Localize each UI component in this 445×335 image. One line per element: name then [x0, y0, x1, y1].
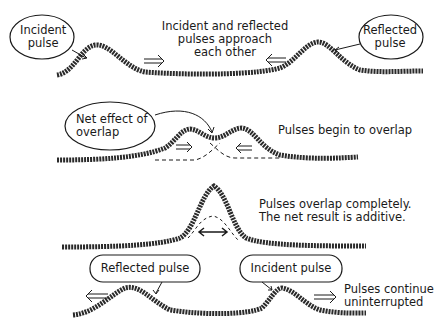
incident-pulse-label: Incident pulse [20, 24, 66, 50]
caption-line: each other [155, 46, 295, 59]
label-line: Incident pulse [240, 262, 342, 275]
right-double-arrow-icon [314, 291, 336, 303]
reflected-pulse-label: Reflected pulse [363, 24, 417, 50]
caption-line: The net result is additive. [259, 211, 412, 224]
net-effect-label: Net effect of overlap [76, 113, 148, 139]
label-line: Reflected pulse [90, 262, 200, 275]
left-double-arrow-icon [236, 143, 252, 153]
reflected-pulse-label: Reflected pulse [90, 262, 200, 275]
label-line: pulse [363, 37, 417, 50]
left-right-arrow-icon [199, 228, 227, 236]
label-line: overlap [76, 126, 148, 139]
incident-pulse-label: Incident pulse [240, 262, 342, 275]
begin-overlap-caption: Pulses begin to overlap [278, 124, 412, 137]
left-double-arrow-icon [86, 290, 108, 302]
complete-overlap-caption: Pulses overlap completely. The net resul… [259, 198, 412, 224]
caption-line: uninterrupted [344, 296, 434, 309]
continue-caption: Pulses continue uninterrupted [344, 283, 434, 309]
rope-spring [73, 287, 366, 315]
label-line: pulse [20, 37, 66, 50]
caption-line: Pulses begin to overlap [278, 124, 412, 137]
pointer-arrow-icon [156, 282, 162, 293]
approach-caption: Incident and reflected pulses approach e… [155, 20, 295, 59]
pointer-arrow-icon [262, 282, 272, 290]
right-double-arrow-icon [176, 142, 192, 152]
